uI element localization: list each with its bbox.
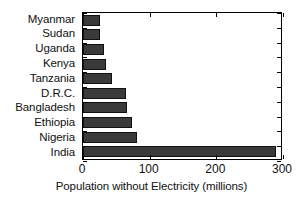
y-tick-mark [83, 87, 87, 88]
y-tick-mark [277, 72, 281, 73]
bar-myanmar [83, 15, 100, 26]
bar-row [83, 144, 281, 159]
y-tick-mark [277, 43, 281, 44]
bar-row [83, 42, 281, 57]
y-tick-mark [277, 131, 281, 132]
x-tick-mark [216, 13, 217, 17]
x-tick-mark [150, 155, 151, 159]
y-axis-label: Uganda [0, 42, 79, 57]
y-tick-mark [277, 102, 281, 103]
bar-kenya [83, 59, 106, 70]
y-tick-mark [277, 57, 281, 58]
bars-container [83, 13, 281, 159]
y-axis-label: D.R.C. [0, 86, 79, 101]
y-tick-mark [83, 13, 87, 14]
bar-drc [83, 88, 126, 99]
bar-row [83, 115, 281, 130]
y-tick-mark [277, 87, 281, 88]
x-tick-label: 300 [272, 163, 292, 175]
bar-row [83, 101, 281, 116]
bar-uganda [83, 44, 104, 55]
x-tick-mark [283, 13, 284, 17]
bar-sudan [83, 29, 100, 40]
bar-tanzania [83, 73, 112, 84]
y-tick-mark [83, 72, 87, 73]
x-tick-label: 100 [139, 163, 159, 175]
bar-row [83, 130, 281, 145]
x-tick-mark [283, 155, 284, 159]
y-tick-mark [83, 117, 87, 118]
bar-row [83, 28, 281, 43]
x-tick-mark [83, 155, 84, 159]
bar-row [83, 57, 281, 72]
bar-ethiopia [83, 117, 132, 128]
x-tick-mark [150, 13, 151, 17]
y-tick-mark [83, 131, 87, 132]
y-axis-label: Sudan [0, 27, 79, 42]
y-axis-label: Kenya [0, 56, 79, 71]
bar-row [83, 71, 281, 86]
y-tick-mark [83, 28, 87, 29]
y-tick-mark [277, 13, 281, 14]
bar-bangladesh [83, 102, 127, 113]
y-tick-mark [83, 146, 87, 147]
y-tick-mark [83, 43, 87, 44]
y-axis-category-labels: Myanmar Sudan Uganda Kenya Tanzania D.R.… [0, 12, 79, 160]
x-tick-label: 200 [205, 163, 225, 175]
y-axis-label: Myanmar [0, 12, 79, 27]
bar-chart: Myanmar Sudan Uganda Kenya Tanzania D.R.… [0, 0, 303, 201]
bar-india [83, 146, 276, 157]
x-tick-label: 0 [79, 163, 86, 175]
y-tick-mark [277, 28, 281, 29]
x-axis-title: Population without Electricity (millions… [0, 181, 303, 193]
y-tick-mark [277, 117, 281, 118]
y-axis-label: Tanzania [0, 71, 79, 86]
bar-nigeria [83, 132, 137, 143]
y-axis-label: India [0, 145, 79, 160]
y-axis-label: Ethiopia [0, 116, 79, 131]
y-tick-mark [83, 57, 87, 58]
bar-row [83, 86, 281, 101]
y-axis-label: Bangladesh [0, 101, 79, 116]
x-tick-mark [216, 155, 217, 159]
plot-area [82, 12, 282, 160]
bar-row [83, 13, 281, 28]
y-axis-label: Nigeria [0, 130, 79, 145]
y-tick-mark [277, 146, 281, 147]
y-tick-mark [83, 102, 87, 103]
